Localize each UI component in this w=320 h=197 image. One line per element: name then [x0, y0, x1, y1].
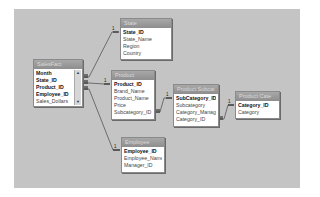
table-title[interactable]: Employee — [122, 138, 164, 147]
table-title[interactable]: Product Subcat — [174, 85, 218, 94]
field[interactable]: Category_ID — [176, 116, 216, 123]
cardinality-one-category: 1 — [228, 99, 231, 104]
field[interactable]: Employee_Name — [124, 155, 162, 162]
field[interactable]: Brand_Name — [114, 88, 152, 95]
field[interactable]: State_Name — [123, 36, 169, 43]
cardinality-one-employee: 1 — [114, 144, 117, 149]
field[interactable]: Manager_ID — [124, 162, 162, 169]
field[interactable]: SubCategory_ID — [176, 95, 216, 102]
field[interactable]: Product_Name — [114, 95, 152, 102]
field[interactable]: Category_Manag — [176, 109, 216, 116]
scrollbar[interactable]: ▲ ▼ — [74, 70, 81, 105]
table-state[interactable]: State State_ID State_Name Region Country — [120, 18, 172, 60]
field[interactable]: State_ID — [123, 29, 169, 36]
field[interactable]: Category — [238, 109, 277, 116]
cardinality-one-subcat: 1 — [166, 92, 169, 97]
table-title[interactable]: Product — [112, 71, 154, 80]
table-title[interactable]: SalesFact — [34, 60, 82, 69]
table-employee[interactable]: Employee Employee_ID Employee_Name Manag… — [121, 137, 165, 173]
field[interactable]: Employee_ID — [124, 148, 162, 155]
cardinality-one-product: 1 — [104, 78, 107, 83]
field[interactable]: Country — [123, 50, 169, 57]
table-product-subcategory[interactable]: Product Subcat SubCategory_ID Subcategor… — [173, 84, 219, 127]
table-product-category[interactable]: Product Cate Category_ID Category — [235, 91, 280, 119]
field[interactable]: Price — [114, 102, 152, 109]
field[interactable]: Product_ID — [114, 81, 152, 88]
table-product[interactable]: Product Product_ID Brand_Name Product_Na… — [111, 70, 155, 120]
scroll-down-icon[interactable]: ▼ — [75, 99, 81, 105]
field[interactable]: Category_ID — [238, 102, 277, 109]
scroll-up-icon[interactable]: ▲ — [75, 70, 81, 76]
table-title[interactable]: Product Cate — [236, 92, 279, 101]
field[interactable]: Region — [123, 43, 169, 50]
field[interactable]: Subcategory_ID — [114, 109, 152, 116]
cardinality-one-state: 1 — [112, 26, 115, 31]
table-salesfact[interactable]: SalesFact Month State_ID Product_ID Empl… — [33, 59, 83, 107]
table-title[interactable]: State — [121, 19, 171, 28]
field[interactable]: Subcategory — [176, 102, 216, 109]
